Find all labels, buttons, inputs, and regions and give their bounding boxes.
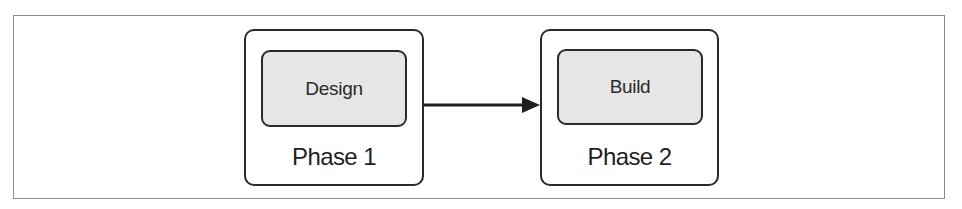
task-build-box: Build [557, 49, 703, 125]
task-design-box: Design [261, 50, 407, 127]
task-build-label: Build [610, 76, 651, 98]
phase-1-label: Phase 1 [246, 143, 422, 171]
task-design-label: Design [305, 78, 362, 100]
phase-1-box: Design Phase 1 [244, 29, 424, 186]
phase-2-label: Phase 2 [542, 143, 717, 171]
arrow-connector-icon [424, 94, 542, 116]
phase-2-box: Build Phase 2 [540, 29, 719, 186]
